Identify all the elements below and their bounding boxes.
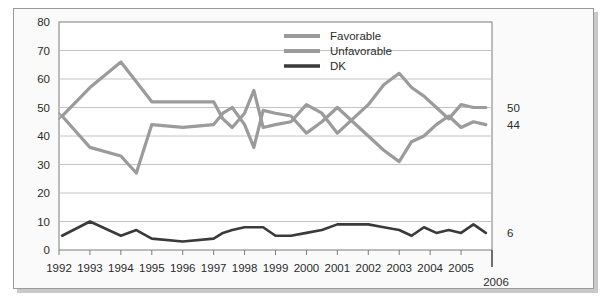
y-axis-tick-label: 20: [37, 187, 50, 199]
y-axis-tick-label: 60: [37, 73, 50, 85]
x-axis-tick-label: 2003: [386, 262, 412, 274]
chart-figure: 0102030405060708019921993199419951996199…: [0, 0, 616, 308]
x-axis-tick-label: 1994: [108, 262, 134, 274]
x-axis-tick-label: 2004: [417, 262, 443, 274]
x-axis-extra-label-2006: 2006: [483, 276, 509, 288]
x-axis-tick-label: 1993: [77, 262, 103, 274]
end-value-label-unfavorable: 44: [507, 119, 520, 131]
x-axis-tick-label: 1995: [139, 262, 165, 274]
y-axis-tick-label: 10: [37, 216, 50, 228]
x-axis-tick-label: 1992: [46, 262, 72, 274]
legend-label-dk: DK: [330, 60, 346, 72]
x-axis-tick-label: 2002: [355, 262, 381, 274]
y-axis-tick-label: 30: [37, 159, 50, 171]
end-value-label-dk: 6: [507, 227, 513, 239]
legend-label-favorable: Favorable: [330, 30, 381, 42]
x-axis-tick-label: 2001: [325, 262, 351, 274]
line-chart: 0102030405060708019921993199419951996199…: [0, 0, 616, 308]
end-value-label-favorable: 50: [507, 102, 520, 114]
x-axis-tick-label: 1998: [232, 262, 258, 274]
x-axis-tick-label: 1997: [201, 262, 227, 274]
y-axis-tick-label: 80: [37, 16, 50, 28]
x-axis-tick-label: 1999: [263, 262, 289, 274]
x-axis-tick-label: 2000: [294, 262, 320, 274]
y-axis-tick-label: 70: [37, 45, 50, 57]
x-axis-tick-label: 2005: [448, 262, 474, 274]
legend-label-unfavorable: Unfavorable: [330, 45, 392, 57]
x-axis-tick-label: 1996: [170, 262, 196, 274]
y-axis-tick-label: 40: [37, 130, 50, 142]
y-axis-tick-label: 50: [37, 102, 50, 114]
y-axis-tick-label: 0: [44, 244, 50, 256]
